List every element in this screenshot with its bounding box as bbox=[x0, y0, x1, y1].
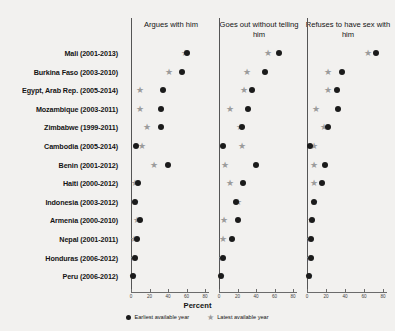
legend-star-icon: ★ bbox=[207, 315, 214, 320]
marker-earliest-year bbox=[132, 255, 138, 261]
country-label: Peru (2006-2012) bbox=[62, 272, 118, 281]
x-axis-tick bbox=[364, 289, 365, 292]
marker-earliest-year bbox=[335, 106, 341, 112]
marker-earliest-year bbox=[137, 217, 143, 223]
panel-left-spine bbox=[219, 18, 220, 292]
x-axis-tick bbox=[187, 289, 188, 292]
country-label: Haiti (2000-2012) bbox=[63, 179, 118, 188]
marker-earliest-year bbox=[276, 50, 282, 56]
marker-earliest-year bbox=[220, 255, 226, 261]
panel-refuses-to-have-sex-with-him: Refuses to have sex with him020406080★★★… bbox=[303, 0, 393, 300]
panel-title: Argues with him bbox=[127, 20, 215, 30]
marker-earliest-year bbox=[240, 180, 246, 186]
marker-earliest-year bbox=[249, 87, 255, 93]
country-label: Egypt, Arab Rep. (2005-2014) bbox=[22, 86, 118, 95]
x-axis-tick bbox=[205, 289, 206, 292]
legend-item: ★Latest available year bbox=[207, 314, 268, 320]
marker-earliest-year bbox=[134, 236, 140, 242]
panel-title: Goes out without telling him bbox=[215, 20, 303, 40]
marker-latest-year: ★ bbox=[150, 161, 158, 169]
x-axis-tick-label: 40 bbox=[342, 294, 347, 299]
x-axis-tick-label: 60 bbox=[361, 294, 366, 299]
country-label: Armenia (2000-2010) bbox=[50, 216, 118, 225]
marker-latest-year: ★ bbox=[226, 179, 234, 187]
marker-earliest-year bbox=[165, 162, 171, 168]
x-axis-tick bbox=[219, 289, 220, 292]
marker-earliest-year bbox=[322, 162, 328, 168]
legend-label: Latest available year bbox=[217, 314, 268, 320]
marker-latest-year: ★ bbox=[238, 142, 246, 150]
x-axis-tick-label: 60 bbox=[272, 294, 277, 299]
x-axis-tick-label: 80 bbox=[290, 294, 295, 299]
marker-earliest-year bbox=[179, 69, 185, 75]
marker-earliest-year bbox=[239, 124, 245, 130]
marker-earliest-year bbox=[158, 106, 164, 112]
x-axis-tick bbox=[293, 289, 294, 292]
marker-earliest-year bbox=[130, 273, 136, 279]
marker-earliest-year bbox=[245, 106, 251, 112]
x-axis-tick-label: 20 bbox=[323, 294, 328, 299]
marker-earliest-year bbox=[334, 87, 340, 93]
marker-latest-year: ★ bbox=[310, 179, 318, 187]
marker-earliest-year bbox=[309, 217, 315, 223]
marker-earliest-year bbox=[132, 199, 138, 205]
marker-earliest-year bbox=[306, 273, 312, 279]
marker-earliest-year bbox=[319, 180, 325, 186]
x-axis-title: Percent bbox=[0, 301, 395, 310]
marker-latest-year: ★ bbox=[324, 86, 332, 94]
panel-title: Refuses to have sex with him bbox=[303, 20, 393, 40]
country-label: Burkina Faso (2003-2010) bbox=[34, 67, 118, 76]
marker-earliest-year bbox=[308, 255, 314, 261]
country-label: Nepal (2001-2011) bbox=[59, 235, 118, 244]
x-axis-tick-label: 0 bbox=[218, 294, 221, 299]
x-axis-tick bbox=[131, 289, 132, 292]
marker-latest-year: ★ bbox=[226, 105, 234, 113]
marker-earliest-year bbox=[220, 143, 226, 149]
x-axis-tick bbox=[168, 289, 169, 292]
marker-latest-year: ★ bbox=[219, 235, 227, 243]
x-axis-tick-label: 60 bbox=[184, 294, 189, 299]
marker-latest-year: ★ bbox=[143, 123, 151, 131]
marker-earliest-year bbox=[158, 124, 164, 130]
marker-earliest-year bbox=[218, 273, 224, 279]
x-axis-tick bbox=[383, 289, 384, 292]
marker-earliest-year bbox=[229, 236, 235, 242]
x-axis-tick-label: 0 bbox=[306, 294, 309, 299]
x-axis-tick-label: 40 bbox=[165, 294, 170, 299]
country-label: Indonesia (2003-2012) bbox=[45, 197, 118, 206]
x-axis-tick bbox=[275, 289, 276, 292]
marker-earliest-year bbox=[325, 124, 331, 130]
country-label: Benin (2001-2012) bbox=[59, 160, 118, 169]
x-axis-tick bbox=[326, 289, 327, 292]
dot-plot-figure: Mali (2001-2013)Burkina Faso (2003-2010)… bbox=[0, 0, 395, 331]
x-axis-tick-label: 80 bbox=[380, 294, 385, 299]
marker-latest-year: ★ bbox=[310, 161, 318, 169]
marker-earliest-year bbox=[135, 180, 141, 186]
panel-left-spine bbox=[131, 18, 132, 292]
marker-latest-year: ★ bbox=[220, 216, 228, 224]
country-label: Mozambique (2003-2011) bbox=[36, 104, 118, 113]
x-axis-line bbox=[307, 292, 387, 293]
marker-latest-year: ★ bbox=[364, 49, 372, 57]
marker-earliest-year bbox=[235, 217, 241, 223]
legend-dot-icon bbox=[126, 315, 131, 320]
marker-earliest-year bbox=[262, 69, 268, 75]
marker-latest-year: ★ bbox=[165, 68, 173, 76]
x-axis-line bbox=[131, 292, 209, 293]
country-label: Cambodia (2005-2014) bbox=[44, 142, 118, 151]
country-label: Mali (2001-2013) bbox=[64, 49, 118, 58]
marker-earliest-year bbox=[133, 143, 139, 149]
x-axis-tick-label: 20 bbox=[147, 294, 152, 299]
marker-earliest-year bbox=[339, 69, 345, 75]
marker-earliest-year bbox=[160, 87, 166, 93]
marker-latest-year: ★ bbox=[138, 142, 146, 150]
chart-legend: Earliest available year★Latest available… bbox=[0, 314, 395, 320]
panel-argues-with-him: Argues with him020406080★★★★★★★★★★★★★ bbox=[127, 0, 215, 300]
x-axis-tick-label: 40 bbox=[253, 294, 258, 299]
marker-earliest-year bbox=[307, 143, 313, 149]
marker-earliest-year bbox=[253, 162, 259, 168]
panel-goes-out-without-telling-him: Goes out without telling him020406080★★★… bbox=[215, 0, 303, 300]
country-label-column: Mali (2001-2013)Burkina Faso (2003-2010)… bbox=[0, 0, 125, 300]
country-label: Honduras (2006-2012) bbox=[45, 253, 118, 262]
x-axis-tick bbox=[307, 289, 308, 292]
